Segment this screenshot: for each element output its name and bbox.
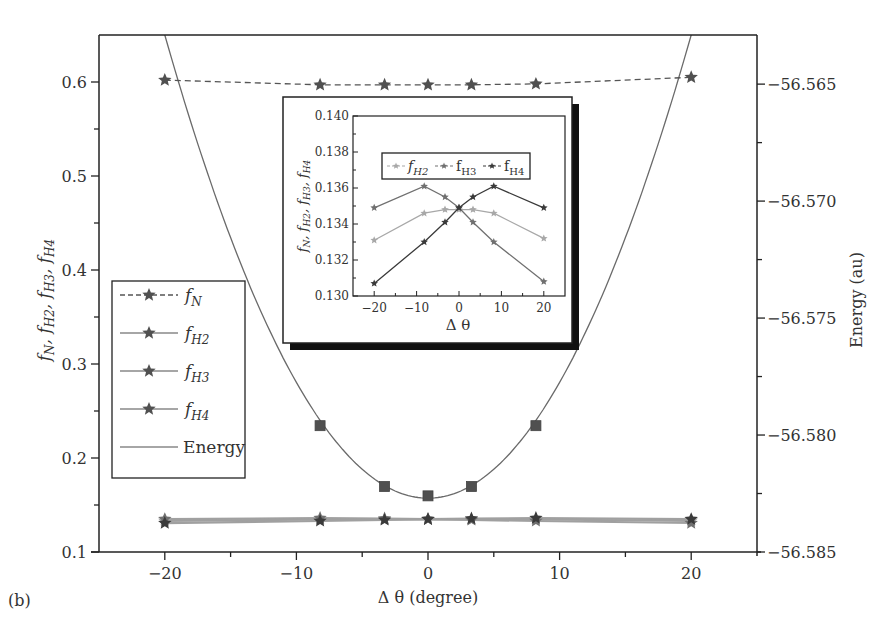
energy-square-marker (315, 421, 325, 431)
panel-label: (b) (8, 591, 31, 610)
energy-charge-chart: −20−10010200.10.20.30.40.50.6−56.585−56.… (0, 0, 894, 637)
main-legend: fNfH2fH3fH4Energy (112, 281, 245, 478)
inset-x-tick-label: 20 (536, 301, 551, 315)
x-tick-label: 10 (549, 564, 569, 583)
star-marker-icon (421, 78, 434, 91)
x-tick-label: 20 (681, 564, 701, 583)
star-marker-icon (685, 70, 698, 83)
right-y-tick-label: −56.565 (767, 75, 836, 94)
inset-y-tick-label: 0.136 (315, 181, 349, 195)
inset-chart: −20−10010200.1300.1320.1340.1360.1380.14… (283, 97, 579, 350)
inset-y-tick-label: 0.140 (315, 109, 349, 123)
inset-x-tick-label: −10 (404, 301, 429, 315)
legend-label: Energy (183, 437, 245, 457)
star-marker-icon (421, 512, 434, 525)
star-marker-icon (313, 78, 326, 91)
energy-square-marker (531, 421, 541, 431)
x-tick-label: 0 (423, 564, 433, 583)
star-marker-icon (378, 78, 391, 91)
star-marker-icon (529, 77, 542, 90)
left-y-axis-label-text: fN, fH2, fH3, fH4 (34, 239, 57, 363)
x-tick-label: −20 (148, 564, 182, 583)
inset-y-tick-label: 0.130 (315, 289, 349, 303)
x-axis-label: Δ θ (degree) (378, 588, 478, 607)
inset-y-tick-label: 0.138 (315, 145, 349, 159)
y-tick-label: 0.5 (62, 167, 87, 186)
right-y-tick-label: −56.580 (767, 426, 836, 445)
y-tick-label: 0.2 (62, 449, 87, 468)
right-y-tick-label: −56.585 (767, 543, 836, 562)
right-y-tick-label: −56.570 (767, 192, 836, 211)
inset-y-axis-label: fN, fH2, fH3, fH4 (295, 159, 312, 253)
x-tick-label: −10 (280, 564, 314, 583)
inset-x-axis-label: Δ θ (446, 316, 471, 334)
energy-square-marker (466, 481, 476, 491)
star-marker-icon (465, 78, 478, 91)
star-marker-icon (158, 73, 171, 86)
energy-square-marker (380, 481, 390, 491)
inset-x-tick-label: −20 (362, 301, 387, 315)
inset-y-tick-label: 0.134 (315, 217, 350, 231)
right-y-tick-label: −56.575 (767, 309, 836, 328)
left-y-axis-label: fN, fH2, fH3, fH4 (34, 239, 57, 363)
y-tick-label: 0.4 (62, 261, 87, 280)
energy-square-marker (423, 491, 433, 501)
inset-x-tick-label: 0 (455, 301, 463, 315)
inset-x-tick-label: 10 (494, 301, 509, 315)
right-y-axis-label: Energy (au) (847, 252, 866, 348)
y-tick-label: 0.1 (62, 543, 87, 562)
inset-y-tick-label: 0.132 (315, 253, 349, 267)
y-tick-label: 0.3 (62, 355, 87, 374)
star-marker-icon (378, 513, 391, 526)
y-tick-label: 0.6 (62, 73, 87, 92)
